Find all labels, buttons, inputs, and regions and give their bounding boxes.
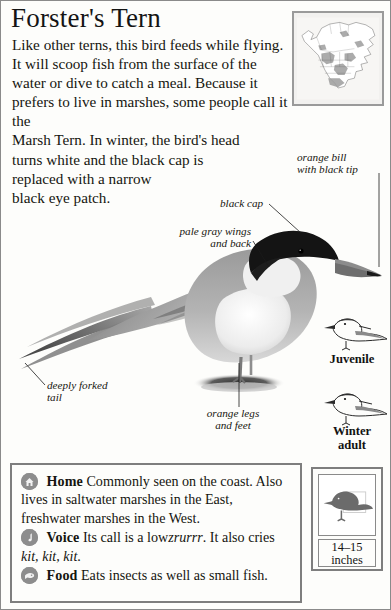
info-label-voice: Voice <box>47 529 80 545</box>
house-icon <box>21 473 38 490</box>
info-label-food: Food <box>47 567 78 583</box>
field-guide-page: Forster's Tern Like other terns, this bi… <box>0 0 391 610</box>
info-call-2: kit, kit, kit <box>21 548 77 564</box>
info-text-voice-middle: . It also cries <box>203 529 275 545</box>
winter-adult-caption: Winteradult <box>319 425 385 452</box>
info-entry-food: Food Eats insects as well as small fish. <box>21 566 292 584</box>
page-title: Forster's Tern <box>11 3 161 33</box>
juvenile-figure <box>315 313 389 353</box>
callout-deeply-forked-tail: deeply forkedtail <box>47 379 108 404</box>
callout-orange-bill: orange billwith black tip <box>297 151 358 176</box>
info-label-home: Home <box>47 473 83 489</box>
info-entry-home: Home Commonly seen on the coast. Also li… <box>21 472 292 527</box>
fish-icon <box>21 567 38 584</box>
info-entry-voice: Voice Its call is a lowzrurrr. It also c… <box>21 528 292 565</box>
callout-orange-legs: orange legsand feet <box>197 407 269 432</box>
music-note-icon <box>21 529 38 546</box>
winter-adult-figure <box>315 387 389 427</box>
size-box: 14–15 inches <box>311 467 383 571</box>
callout-black-cap: black cap <box>220 197 263 209</box>
callout-pale-gray-wings: pale gray wingsand back <box>147 225 251 250</box>
info-text-voice-after: . <box>77 548 81 564</box>
size-value: 14–15 <box>332 540 363 554</box>
range-map <box>292 11 384 106</box>
info-panel: Home Commonly seen on the coast. Also li… <box>10 463 302 603</box>
juvenile-caption: Juvenile <box>319 353 385 367</box>
size-measurement: 14–15 inches <box>318 539 376 567</box>
info-call-1: zrurrr <box>168 529 202 545</box>
info-text-food: Eats insects as well as small fish. <box>81 567 268 583</box>
size-unit: inches <box>331 553 363 567</box>
info-text-voice-before: Its call is a low <box>83 529 168 545</box>
size-silhouette <box>318 474 376 536</box>
